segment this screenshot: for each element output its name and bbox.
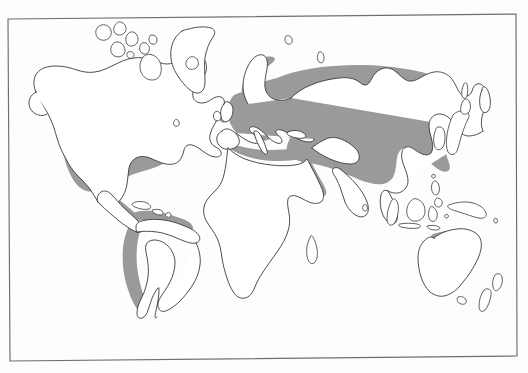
coastline-island-pacific-1 — [432, 174, 436, 178]
coastline-arctic-island-7 — [127, 52, 134, 59]
coastline-korea — [434, 127, 445, 150]
world-map-canvas — [0, 0, 528, 373]
coastline-island-svalbard — [285, 36, 292, 45]
coastline-ireland — [214, 111, 222, 120]
coastline-arctic-island-6 — [149, 35, 157, 44]
coastline-philippines-mindanao — [435, 198, 443, 207]
coastline-island-vanuatu — [494, 218, 498, 223]
coastline-island-newfoundland — [174, 119, 180, 126]
coastline-lesser-antilles — [166, 213, 172, 218]
coastline-island-novaya-zemlya — [318, 52, 325, 63]
coastline-philippines-luzon — [432, 181, 440, 195]
coastline-iceland — [186, 57, 198, 70]
coastline-island-pacific-2 — [445, 214, 449, 218]
coastline-arctic-island-1 — [96, 25, 112, 41]
world-distribution-map-figure — [0, 0, 528, 373]
coastline-island-sri-lanka — [363, 205, 368, 212]
coastline-arctic-island-4 — [140, 43, 150, 54]
coastline-arctic-island-3 — [126, 32, 138, 46]
coastline-arctic-island-2 — [114, 22, 126, 35]
